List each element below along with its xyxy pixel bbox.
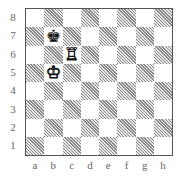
square-h2 [154, 119, 172, 137]
square-g5 [136, 64, 154, 82]
square-b7: ♚ [44, 27, 62, 45]
square-h1 [154, 137, 172, 155]
square-b8 [44, 9, 62, 27]
rank-label-5: 5 [7, 66, 19, 78]
square-e5 [99, 64, 117, 82]
square-f6 [117, 46, 135, 64]
white-king-icon: ♔ [46, 64, 61, 81]
square-e1 [99, 137, 117, 155]
square-g7 [136, 27, 154, 45]
square-a2 [26, 119, 44, 137]
square-c6: ♖ [63, 46, 81, 64]
square-h7 [154, 27, 172, 45]
file-label-h: h [154, 159, 172, 171]
square-d7 [81, 27, 99, 45]
square-b4 [44, 82, 62, 100]
square-d2 [81, 119, 99, 137]
square-f5 [117, 64, 135, 82]
square-d6 [81, 46, 99, 64]
square-a5 [26, 64, 44, 82]
square-b1 [44, 137, 62, 155]
file-label-b: b [44, 159, 62, 171]
square-c4 [63, 82, 81, 100]
square-e7 [99, 27, 117, 45]
square-e8 [99, 9, 117, 27]
square-a3 [26, 100, 44, 118]
square-d4 [81, 82, 99, 100]
square-c8 [63, 9, 81, 27]
square-d1 [81, 137, 99, 155]
file-label-d: d [81, 159, 99, 171]
square-f7 [117, 27, 135, 45]
square-f2 [117, 119, 135, 137]
square-g6 [136, 46, 154, 64]
rank-label-6: 6 [7, 48, 19, 60]
square-c2 [63, 119, 81, 137]
square-c7 [63, 27, 81, 45]
square-f1 [117, 137, 135, 155]
square-c3 [63, 100, 81, 118]
square-d8 [81, 9, 99, 27]
white-rook-icon: ♖ [64, 46, 79, 63]
square-h6 [154, 46, 172, 64]
rank-label-4: 4 [7, 84, 19, 96]
file-label-g: g [136, 159, 154, 171]
square-h8 [154, 9, 172, 27]
square-f4 [117, 82, 135, 100]
file-label-e: e [99, 159, 117, 171]
square-e4 [99, 82, 117, 100]
file-label-a: a [26, 159, 44, 171]
rank-label-7: 7 [7, 29, 19, 41]
square-c1 [63, 137, 81, 155]
square-h3 [154, 100, 172, 118]
rank-label-1: 1 [7, 139, 19, 151]
square-a7 [26, 27, 44, 45]
square-b5: ♔ [44, 64, 62, 82]
square-b3 [44, 100, 62, 118]
file-label-f: f [118, 159, 136, 171]
square-d3 [81, 100, 99, 118]
square-g2 [136, 119, 154, 137]
rank-label-3: 3 [7, 103, 19, 115]
chess-board: ♚♖♔ [25, 8, 173, 156]
square-a6 [26, 46, 44, 64]
square-g1 [136, 137, 154, 155]
file-label-c: c [63, 159, 81, 171]
square-f3 [117, 100, 135, 118]
square-e3 [99, 100, 117, 118]
square-e2 [99, 119, 117, 137]
square-g3 [136, 100, 154, 118]
black-king-icon: ♚ [46, 28, 61, 45]
square-b2 [44, 119, 62, 137]
square-g8 [136, 9, 154, 27]
square-c5 [63, 64, 81, 82]
rank-label-8: 8 [7, 11, 19, 23]
square-h5 [154, 64, 172, 82]
square-a1 [26, 137, 44, 155]
square-b6 [44, 46, 62, 64]
square-d5 [81, 64, 99, 82]
square-a4 [26, 82, 44, 100]
rank-label-2: 2 [7, 121, 19, 133]
square-f8 [117, 9, 135, 27]
square-h4 [154, 82, 172, 100]
square-g4 [136, 82, 154, 100]
square-e6 [99, 46, 117, 64]
square-a8 [26, 9, 44, 27]
